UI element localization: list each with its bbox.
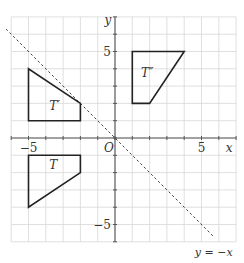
label-T-prime: T′ [49,99,60,113]
x-tick-label: −5 [20,141,38,155]
x-tick-label: 5 [198,141,206,155]
grid [11,17,236,242]
axes [11,17,236,242]
y-tick-label: −5 [93,218,111,232]
origin-label: O [104,141,114,155]
label-T: T [49,158,58,172]
mirror-line [6,29,214,237]
mirror-line-label: y = −x [194,246,234,259]
x-axis-label: x [226,141,233,155]
coordinate-diagram: TT′T″xyO−555−5y = −x [0,0,244,263]
mirror-line-y-equals-minus-x [6,29,214,237]
y-tick-label: 5 [103,45,111,59]
label-T-double-prime: T″ [141,66,154,80]
y-axis-label: y [104,13,112,27]
